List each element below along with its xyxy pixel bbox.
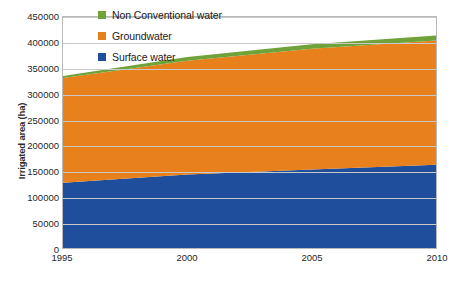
legend-label: Groundwater [112,30,172,42]
y-tick-label: 400000 [1,36,59,47]
gridline [63,224,436,225]
legend-swatch-icon [98,53,106,61]
x-tick-label: 2005 [301,252,322,263]
legend-item: Non Conventional water [98,8,222,21]
x-tick-label: 2000 [176,252,197,263]
legend-item: Groundwater [98,29,222,42]
gridline [63,69,436,70]
gridline [63,121,436,122]
y-tick-label: 450000 [1,11,59,22]
y-tick-label: 150000 [1,166,59,177]
legend-swatch-icon [98,32,106,40]
y-tick-label: 250000 [1,114,59,125]
x-tick-label: 1995 [51,252,72,263]
y-tick-label: 300000 [1,88,59,99]
legend-swatch-icon [98,11,106,19]
y-tick-label: 50000 [1,218,59,229]
y-tick-label: 200000 [1,140,59,151]
y-tick-label: 0 [1,244,59,255]
x-axis-tick-labels: 1995200020052010 [62,252,437,268]
chart-figure: Irrigated area (ha) 05000010000015000020… [0,0,452,282]
chart-legend: Non Conventional waterGroundwaterSurface… [98,8,222,63]
x-tick-label: 2010 [426,252,447,263]
gridline [63,198,436,199]
y-tick-label: 100000 [1,192,59,203]
y-tick-label: 350000 [1,62,59,73]
gridline [63,95,436,96]
gridline [63,146,436,147]
legend-item: Surface water [98,50,222,63]
y-axis-tick-labels: 0500001000001500002000002500003000003500… [0,0,59,282]
legend-label: Surface water [112,51,175,63]
legend-label: Non Conventional water [112,9,222,21]
gridline [63,172,436,173]
